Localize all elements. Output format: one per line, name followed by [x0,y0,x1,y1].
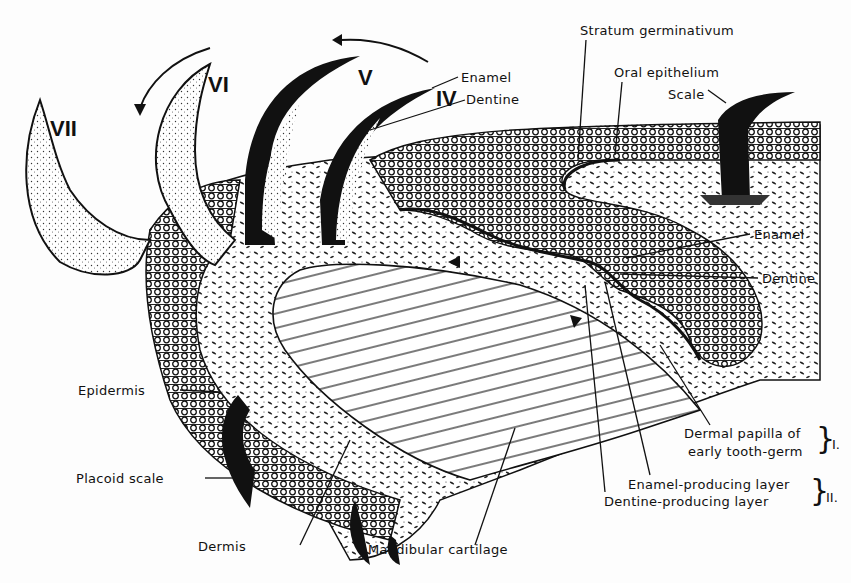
label-dentine-top: Dentine [466,93,519,107]
label-scale: Scale [668,88,704,102]
tooth-label-VII: VII [50,116,77,142]
label-dermis: Dermis [198,540,246,554]
tooth-VII [26,100,150,275]
label-group-1: I. [832,437,840,452]
label-placoid-scale: Placoid scale [76,472,164,486]
tooth-label-VI: VI [208,72,229,98]
label-dentine-right: Dentine [762,272,815,286]
label-group-2: II. [826,490,838,505]
label-dermal-papilla-line2: early tooth-germ [688,445,803,459]
label-enamel-top: Enamel [461,71,512,85]
label-enamel-right: Enamel [754,228,805,242]
tooth-label-IV: IV [436,86,457,112]
diagram-canvas: IV V VI VII Stratum germinativum Oral ep… [0,0,851,583]
label-stratum-germinativum: Stratum germinativum [580,24,734,38]
label-dermal-papilla-line1: Dermal papilla of [684,427,801,441]
tooth-label-V: V [358,65,373,91]
label-oral-epithelium: Oral epithelium [614,66,719,80]
label-mandibular-cartilage: Mandibular cartilage [368,543,508,557]
label-enamel-producing-layer: Enamel-producing layer [628,478,790,492]
label-dentine-producing-layer: Dentine-producing layer [604,495,769,509]
label-epidermis: Epidermis [78,384,145,398]
